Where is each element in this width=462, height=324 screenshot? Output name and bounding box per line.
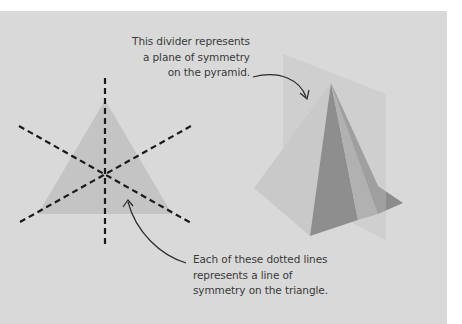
caption-line: on the pyramid. <box>132 65 250 81</box>
caption-line: a plane of symmetry <box>132 50 250 66</box>
pyramid-plane-caption: This divider represents a plane of symme… <box>132 34 250 81</box>
caption-line: This divider represents <box>132 34 250 50</box>
triangle-figure <box>19 78 191 263</box>
triangle-lines-caption: Each of these dotted lines represents a … <box>193 252 328 299</box>
equilateral-triangle <box>38 100 172 214</box>
caption-line: symmetry on the triangle. <box>193 283 328 299</box>
pyramid-figure <box>253 54 403 240</box>
caption-line: represents a line of <box>193 268 328 284</box>
caption-line: Each of these dotted lines <box>193 252 328 268</box>
